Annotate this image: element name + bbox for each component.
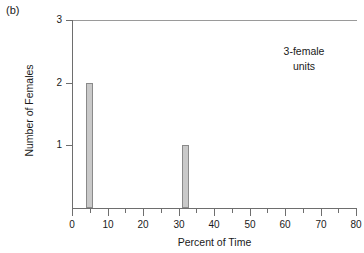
x-axis-tick [321, 209, 322, 216]
x-axis-minor-tick [303, 209, 304, 213]
y-axis-line [72, 20, 73, 209]
chart-annotation: 3-female units [252, 44, 356, 74]
x-axis-title: Percent of Time [72, 236, 357, 248]
plot-top-border [72, 20, 357, 21]
x-axis-tick-label: 40 [194, 219, 234, 230]
chart-figure: (b) Number of Females Percent of Time 3-… [0, 0, 364, 253]
y-axis-tick [66, 83, 73, 84]
y-axis-tick-label: 2 [22, 78, 62, 88]
x-axis-tick-label: 30 [159, 219, 199, 230]
x-axis-tick [250, 209, 251, 216]
x-axis-minor-tick [267, 209, 268, 213]
x-axis-tick [143, 209, 144, 216]
x-axis-tick-label: 0 [52, 219, 92, 230]
x-axis-minor-tick [125, 209, 126, 213]
x-axis-minor-tick [161, 209, 162, 213]
y-axis-title: Number of Females [24, 51, 35, 171]
x-axis-minor-tick [338, 209, 339, 213]
y-axis-tick-label: 3 [22, 15, 62, 25]
x-axis-tick [108, 209, 109, 216]
x-axis-minor-tick [90, 209, 91, 213]
x-axis-tick [179, 209, 180, 216]
panel-label: (b) [6, 4, 19, 17]
bar [86, 83, 93, 208]
x-axis-tick-label: 20 [123, 219, 163, 230]
bar [182, 145, 189, 208]
y-axis-tick [66, 145, 73, 146]
x-axis-tick [285, 209, 286, 216]
y-axis-tick [66, 20, 73, 21]
x-axis-tick-label: 70 [301, 219, 341, 230]
y-axis-tick-label: 1 [22, 140, 62, 150]
x-axis-tick-label: 10 [88, 219, 128, 230]
x-axis-minor-tick [196, 209, 197, 213]
x-axis-tick [214, 209, 215, 216]
x-axis-tick-label: 50 [230, 219, 270, 230]
x-axis-tick [356, 209, 357, 216]
x-axis-tick-label: 80 [336, 219, 364, 230]
x-axis-tick-label: 60 [265, 219, 305, 230]
annotation-line-2: units [252, 59, 356, 74]
annotation-line-1: 3-female [252, 44, 356, 59]
x-axis-minor-tick [232, 209, 233, 213]
x-axis-tick [72, 209, 73, 216]
